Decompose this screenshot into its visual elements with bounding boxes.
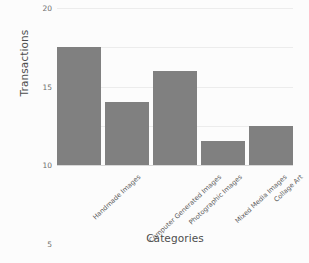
y-axis-tick-label: 15 [42,82,52,91]
bar-slot [201,8,245,165]
bar-series [57,8,293,165]
bar[interactable] [105,102,149,165]
x-axis-title: Categories [57,232,293,244]
x-axis-tick-labels: Handmade ImagesComputer Generated Images… [57,165,293,229]
bar-chart-figure: Transactions 05101520 Handmade ImagesCom… [0,0,309,263]
bar[interactable] [153,71,197,165]
plot-area: 05101520 [57,8,293,165]
bar-slot [153,8,197,165]
y-axis-tick-label: 5 [47,239,52,248]
bar[interactable] [201,141,245,165]
bar[interactable] [57,47,101,165]
y-axis-tick-label: 20 [42,4,52,13]
y-axis-title: Transactions [18,3,30,123]
bar[interactable] [249,126,293,165]
bar-slot [57,8,101,165]
x-axis-tick-label: Handmade Images [91,173,142,221]
bar-slot [105,8,149,165]
y-axis-tick-label: 10 [42,161,52,170]
bar-slot [249,8,293,165]
